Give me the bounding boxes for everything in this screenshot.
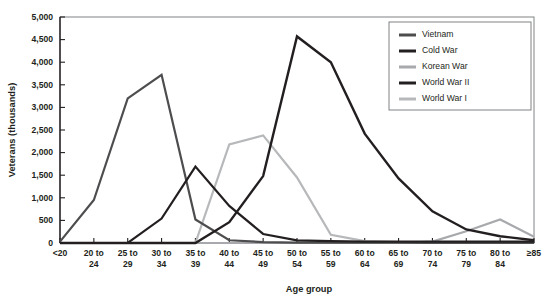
x-axis-tick-label: 60 to64 xyxy=(355,248,375,269)
x-axis-tick-label: 35 to39 xyxy=(185,248,205,269)
x-axis-title: Age group xyxy=(286,284,333,294)
y-axis-tick-label: 1,000 xyxy=(31,193,53,203)
y-axis-tick-label: 2,500 xyxy=(31,125,53,135)
legend-label-korean-war: Korean War xyxy=(422,61,468,71)
legend-label-world-war-ii: World War II xyxy=(422,77,469,87)
y-axis-title: Veterans (thousands) xyxy=(7,83,17,178)
x-axis-tick-label: 40 to44 xyxy=(219,248,239,269)
legend-label-vietnam: Vietnam xyxy=(422,29,453,39)
legend-label-world-war-i: World War I xyxy=(422,93,467,103)
x-axis-tick-label: 70 to74 xyxy=(422,248,442,269)
y-axis-tick-label: 2,000 xyxy=(31,147,53,157)
x-axis-tick-label: 45 to49 xyxy=(253,248,273,269)
y-axis-tick-label: 4,500 xyxy=(31,34,53,44)
y-axis-tick-label: 3,000 xyxy=(31,102,53,112)
x-axis-tick-label: 50 to54 xyxy=(287,248,307,269)
veterans-by-age-line-chart: 05001,0001,5002,0002,5003,0003,5004,0004… xyxy=(0,0,543,298)
x-axis-tick-label: ≥85 xyxy=(527,248,541,258)
x-axis-tick-label: 30 to34 xyxy=(152,248,172,269)
y-axis-tick-label: 4,000 xyxy=(31,57,53,67)
y-axis-tick-label: 1,500 xyxy=(31,170,53,180)
x-axis-tick-label: 80 to84 xyxy=(490,248,510,269)
legend-label-cold-war: Cold War xyxy=(422,45,458,55)
x-axis-tick-label: 55 to59 xyxy=(321,248,341,269)
chart-canvas: 05001,0001,5002,0002,5003,0003,5004,0004… xyxy=(0,0,543,298)
y-axis-tick-label: 3,500 xyxy=(31,80,53,90)
y-axis-tick-label: 500 xyxy=(39,215,54,225)
x-axis-tick-label: 65 to69 xyxy=(389,248,409,269)
x-axis-tick-label: 20 to24 xyxy=(84,248,104,269)
x-axis-tick-label: <20 xyxy=(53,248,68,258)
y-axis-tick-label: 0 xyxy=(48,238,53,248)
x-axis-tick-label: 75 to79 xyxy=(456,248,476,269)
y-axis-tick-label: 5,000 xyxy=(31,12,53,22)
x-axis-tick-label: 25 to29 xyxy=(118,248,138,269)
